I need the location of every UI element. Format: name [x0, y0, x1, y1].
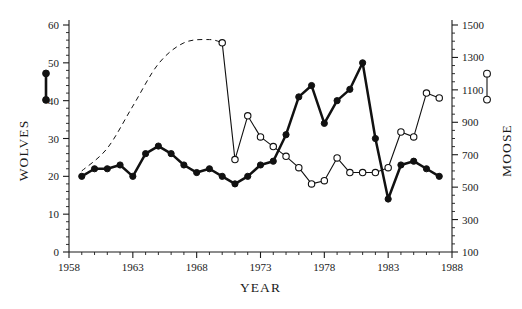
x-axis-tick-label: 1958: [58, 261, 81, 273]
right-axis-tick-label: 900: [462, 116, 479, 128]
data-point-moose: [270, 143, 276, 149]
data-point-moose: [347, 169, 353, 175]
right-axis-tick-label: 1300: [462, 51, 485, 63]
legend-wolves-marker-bottom: [43, 97, 50, 104]
data-point-moose: [257, 134, 263, 140]
right-axis-tick-label: 700: [462, 149, 479, 161]
data-point-wolves: [245, 173, 251, 179]
data-point-moose: [411, 134, 417, 140]
data-point-wolves: [79, 173, 85, 179]
x-axis-tick-label: 1978: [313, 261, 336, 273]
x-axis-tick-label: 1983: [377, 261, 400, 273]
data-point-moose: [359, 169, 365, 175]
data-point-wolves: [117, 162, 123, 168]
data-point-wolves: [321, 120, 327, 126]
chart-figure: 0102030405060100300500700900110013001500…: [0, 0, 522, 309]
data-point-wolves: [334, 98, 340, 104]
data-point-wolves: [296, 94, 302, 100]
right-axis-tick-label: 100: [462, 246, 479, 258]
left-axis-tick-label: 20: [48, 170, 60, 182]
data-point-wolves: [398, 162, 404, 168]
data-point-moose: [334, 155, 340, 161]
data-point-wolves: [181, 162, 187, 168]
right-axis-tick-label: 500: [462, 181, 479, 193]
data-point-wolves: [423, 166, 429, 172]
data-point-wolves: [143, 151, 149, 157]
right-axis-tick-label: 1500: [462, 19, 485, 31]
left-axis-tick-label: 30: [48, 133, 60, 145]
x-axis-tick-label: 1963: [122, 261, 145, 273]
right-axis-title: MOOSE: [499, 124, 514, 177]
data-point-moose: [436, 95, 442, 101]
data-point-wolves: [155, 143, 161, 149]
legend-moose-marker-bottom: [484, 96, 491, 103]
legend-moose-marker-top: [484, 70, 491, 77]
data-point-moose: [296, 164, 302, 170]
data-point-moose: [245, 113, 251, 119]
data-point-wolves: [372, 135, 378, 141]
data-point-wolves: [219, 173, 225, 179]
data-point-wolves: [104, 166, 110, 172]
data-point-moose: [308, 181, 314, 187]
left-axis-tick-label: 10: [48, 208, 60, 220]
data-point-moose: [219, 40, 225, 46]
x-axis-tick-label: 1973: [250, 261, 273, 273]
data-point-wolves: [232, 181, 238, 187]
data-point-moose: [398, 129, 404, 135]
data-point-wolves: [270, 158, 276, 164]
data-point-wolves: [206, 166, 212, 172]
data-point-wolves: [385, 196, 391, 202]
data-point-wolves: [91, 166, 97, 172]
data-point-moose: [423, 90, 429, 96]
data-point-wolves: [168, 151, 174, 157]
x-axis-tick-label: 1968: [186, 261, 209, 273]
data-point-moose: [372, 169, 378, 175]
left-axis-title: WOLVES: [16, 120, 31, 182]
left-axis-tick-label: 60: [48, 19, 60, 31]
data-point-moose: [321, 177, 327, 183]
right-axis-tick-label: 300: [462, 214, 479, 226]
data-point-wolves: [194, 169, 200, 175]
wolves-moose-line-chart: 0102030405060100300500700900110013001500…: [0, 0, 522, 309]
data-point-wolves: [360, 60, 366, 66]
data-point-wolves: [347, 86, 353, 92]
data-point-moose: [385, 164, 391, 170]
data-point-wolves: [436, 173, 442, 179]
data-point-wolves: [257, 162, 263, 168]
data-point-wolves: [308, 82, 314, 88]
left-axis-tick-label: 0: [54, 246, 60, 258]
right-axis-tick-label: 1100: [462, 84, 484, 96]
data-point-wolves: [130, 173, 136, 179]
data-point-wolves: [283, 132, 289, 138]
data-point-moose: [232, 156, 238, 162]
x-axis-tick-label: 1988: [441, 261, 464, 273]
x-axis-title: YEAR: [240, 280, 281, 295]
data-point-wolves: [411, 158, 417, 164]
left-axis-tick-label: 50: [48, 57, 60, 69]
legend-wolves-marker-top: [43, 70, 50, 77]
data-point-moose: [283, 153, 289, 159]
